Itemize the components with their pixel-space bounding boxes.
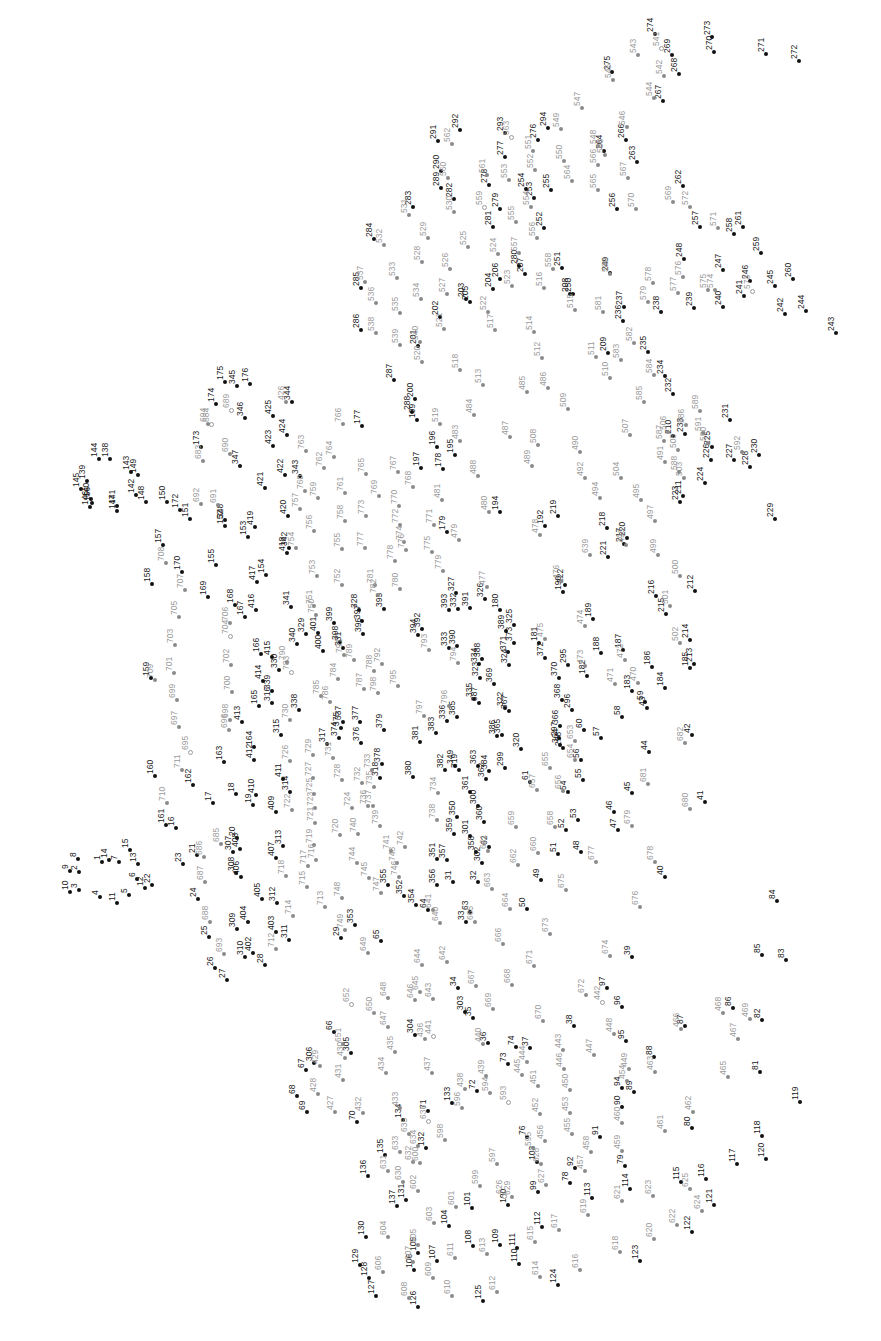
puzzle-dot [632, 1090, 636, 1094]
puzzle-dot [445, 858, 449, 862]
dot-number-label: 686 [195, 841, 204, 855]
puzzle-dot [646, 350, 650, 354]
puzzle-dot [416, 1243, 420, 1247]
puzzle-dot [411, 205, 415, 209]
puzzle-dot [395, 1204, 399, 1208]
puzzle-dot [710, 35, 714, 39]
puzzle-dot [510, 1195, 514, 1199]
dot-number-label: 694 [199, 408, 208, 422]
puzzle-dot [431, 908, 435, 912]
puzzle-dot [486, 849, 490, 853]
puzzle-dot [618, 1250, 622, 1254]
puzzle-dot [532, 964, 536, 968]
dot-number-label: 90 [613, 1096, 622, 1105]
dot-number-label: 386 [488, 720, 497, 734]
puzzle-dot [620, 715, 624, 719]
puzzle-dot [576, 818, 580, 822]
puzzle-dot [284, 400, 288, 404]
puzzle-dot [339, 936, 343, 940]
dot-number-label: 347 [231, 450, 240, 464]
dot-number-label: 685 [212, 828, 221, 842]
puzzle-dot [620, 1121, 624, 1125]
dot-number-label: 296 [563, 694, 572, 708]
dot-number-label: 758 [336, 505, 345, 519]
puzzle-dot [661, 99, 665, 103]
puzzle-dot [173, 643, 177, 647]
puzzle-dot [477, 662, 481, 666]
puzzle-dot [676, 291, 680, 295]
dot-number-label: 595 [524, 1132, 533, 1146]
puzzle-dot [290, 808, 294, 812]
dot-number-label: 110 [510, 1248, 519, 1262]
dot-number-label: 520 [413, 346, 422, 360]
puzzle-dot [688, 1187, 692, 1191]
dot-number-label: 439 [477, 1060, 486, 1074]
dot-number-label: 552 [526, 154, 535, 168]
puzzle-dot [372, 1011, 376, 1015]
puzzle-dot [542, 226, 546, 230]
puzzle-dot [337, 736, 341, 740]
dot-number-label: 724 [343, 792, 352, 806]
puzzle-dot [535, 236, 539, 240]
puzzle-dot [759, 251, 763, 255]
puzzle-dot [364, 1235, 368, 1239]
dot-number-label: 48 [572, 841, 581, 850]
dot-number-label: 580 [601, 258, 610, 272]
puzzle-dot [573, 308, 577, 312]
dot-number-label: 216 [647, 580, 656, 594]
puzzle-dot [88, 505, 92, 509]
puzzle-dot [688, 205, 692, 209]
dot-number-label: 691 [209, 489, 218, 503]
puzzle-dot [435, 883, 439, 887]
puzzle-dot [460, 1106, 464, 1110]
dot-number-label: 15 [121, 839, 130, 848]
puzzle-dot [620, 1149, 624, 1153]
puzzle-dot [164, 823, 168, 827]
dot-number-label: 391 [461, 592, 470, 606]
puzzle-dot [416, 1251, 420, 1255]
puzzle-dot [243, 615, 247, 619]
puzzle-dot [466, 245, 470, 249]
dot-number-label: 679 [623, 810, 632, 824]
puzzle-dot [238, 464, 242, 468]
puzzle-dot [364, 472, 368, 476]
puzzle-dot [77, 870, 81, 874]
dot-number-label: 356 [428, 869, 437, 883]
dot-number-label: 372 [536, 642, 545, 656]
dot-number-label: 161 [157, 809, 166, 823]
puzzle-dot [127, 893, 131, 897]
puzzle-dot [230, 690, 234, 694]
puzzle-dot [624, 138, 628, 142]
puzzle-dot [455, 815, 459, 819]
puzzle-dot [498, 608, 502, 612]
puzzle-dot [206, 595, 210, 599]
dot-number-label: 687 [196, 866, 205, 880]
dot-number-label: 234 [656, 360, 665, 374]
puzzle-dot [474, 984, 478, 988]
puzzle-dot [668, 604, 672, 608]
dot-number-label: 441 [424, 1020, 433, 1034]
dot-number-label: 660 [529, 837, 538, 851]
dot-number-label: 272 [790, 45, 799, 59]
puzzle-dot [396, 684, 400, 688]
dot-number-label: 509 [559, 393, 568, 407]
puzzle-dot [561, 789, 565, 793]
puzzle-dot [366, 804, 370, 808]
puzzle-dot [381, 1270, 385, 1274]
puzzle-dot [675, 1223, 679, 1227]
puzzle-dot [214, 402, 218, 406]
dot-number-label: 672 [577, 979, 586, 993]
puzzle-dot [434, 731, 438, 735]
puzzle-dot [386, 1025, 390, 1029]
puzzle-dot [652, 96, 656, 100]
dot-number-label: 699 [168, 684, 177, 698]
puzzle-dot [450, 1294, 454, 1298]
puzzle-dot [353, 923, 357, 927]
dot-number-label: 712 [267, 933, 276, 947]
dot-number-label: 97 [598, 977, 607, 986]
dot-number-label: 117 [728, 1148, 737, 1162]
dot-number-label: 749 [336, 914, 345, 928]
dot-number-label: 176 [241, 368, 250, 382]
puzzle-dot [432, 523, 436, 527]
puzzle-dot [358, 720, 362, 724]
